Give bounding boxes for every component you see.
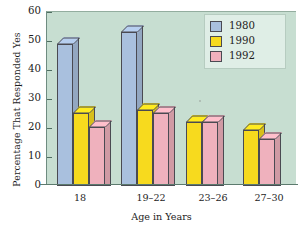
- y-tick-label-60: 60: [15, 6, 41, 16]
- y-tick-label-50: 50: [15, 35, 41, 45]
- x-tick-label-27-30: 27–30: [240, 192, 298, 203]
- x-axis-baseline: [46, 184, 298, 185]
- legend-item-1980: 1980: [210, 19, 281, 34]
- y-tick-label-30: 30: [15, 93, 41, 103]
- legend-swatch-1980: [210, 21, 222, 32]
- bar-1980-18: [57, 44, 73, 186]
- legend-item-1992: 1992: [210, 49, 281, 64]
- x-tick-label-18: 18: [55, 192, 105, 203]
- bar-1992-18: [89, 127, 105, 186]
- y-tickmark-20: [47, 128, 52, 129]
- bar-1992-23–26: [202, 122, 218, 186]
- bar-1992-19–22: [153, 113, 169, 186]
- bar-1990-19–22: [137, 110, 153, 186]
- legend-label-1990: 1990: [229, 36, 255, 46]
- bar-1990-27–30: [243, 130, 259, 186]
- y-tick-label-40: 40: [15, 64, 41, 74]
- y-tickmark-60: [47, 12, 52, 13]
- x-axis-title-wrap: Age in Years: [0, 211, 305, 222]
- bar-side-outline-1992-23–26: [217, 116, 224, 186]
- y-tickmark-40: [47, 70, 52, 71]
- x-axis-left-stub: [40, 184, 46, 185]
- bar-1992-27–30: [259, 139, 275, 186]
- bar-1990-18: [73, 113, 89, 186]
- legend-label-1992: 1992: [229, 51, 255, 61]
- scan-speck: [199, 100, 201, 102]
- y-axis-tick-labels: 60 50 40 30 20 10 0: [14, 0, 41, 235]
- bar-side-outline-1992-27–30: [274, 133, 281, 186]
- x-tick-label-23-26: 23–26: [184, 192, 242, 203]
- bar-side-outline-1992-18: [104, 121, 111, 186]
- legend-swatch-1990: [210, 36, 222, 47]
- y-tick-label-10: 10: [15, 151, 41, 161]
- y-tickmark-30: [47, 99, 52, 100]
- bar-1980-19–22: [121, 32, 137, 186]
- bar-side-outline-1992-19–22: [168, 107, 175, 186]
- bar-1990-23–26: [186, 122, 202, 186]
- x-axis-title: Age in Years: [131, 211, 192, 222]
- y-tickmark-50: [47, 41, 52, 42]
- y-tick-label-20: 20: [15, 122, 41, 132]
- clipped-title-artifact: [120, 0, 280, 3]
- legend-item-1990: 1990: [210, 34, 281, 49]
- y-tickmark-10: [47, 157, 52, 158]
- x-tick-label-19-22: 19–22: [120, 192, 182, 203]
- legend: 1980 1990 1992: [204, 14, 286, 69]
- legend-label-1980: 1980: [229, 21, 255, 31]
- legend-swatch-1992: [210, 51, 222, 62]
- bar-chart: Percentage That Responded Yes 60 50 40 3…: [0, 0, 305, 235]
- y-tick-label-0: 0: [15, 180, 41, 190]
